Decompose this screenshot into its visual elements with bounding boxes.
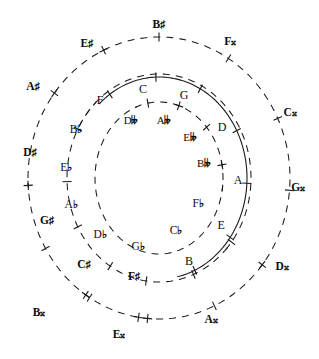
note-accidental: ♯	[135, 270, 140, 282]
note-label-g-sharp: G♯	[40, 215, 54, 227]
note-label-a-sharp: A♯	[26, 81, 39, 93]
note-accidental: 𝄫	[204, 157, 211, 169]
note-accidental: 𝄫	[164, 114, 171, 126]
tick-e-sharp	[99, 46, 107, 54]
ticks-group	[24, 32, 294, 323]
note-letter: A	[26, 80, 34, 92]
note-label-c-sharp: C♯	[77, 259, 90, 271]
ring-flats-ring-cont	[79, 74, 251, 253]
note-label-d-double-flat: D𝄫	[124, 115, 139, 126]
tick-b-double-sharp	[82, 291, 90, 299]
note-accidental: 𝄫	[190, 131, 197, 143]
note-label-e-sharp: E♯	[81, 38, 94, 50]
note-accidental: ♭	[102, 228, 107, 240]
note-letter: G	[132, 240, 140, 252]
note-label-f-double-sharp: F𝄪	[224, 36, 236, 48]
tick-f-flat	[228, 239, 235, 245]
note-label-d-sharp: D♯	[23, 147, 36, 159]
note-accidental: 𝄪	[292, 106, 297, 118]
note-accidental: ♯	[49, 214, 54, 226]
note-accidental: ♭	[67, 161, 72, 173]
ring-double-flats-ring-cont	[95, 107, 223, 254]
note-letter: F	[128, 270, 135, 282]
note-label-a-double-sharp: A𝄪	[205, 314, 218, 326]
note-accidental: 𝄪	[231, 35, 236, 47]
tick-e-double-sharp	[143, 314, 152, 323]
tick-e-double-flat	[203, 124, 210, 130]
tick-e-natural	[226, 235, 233, 240]
note-label-a-flat: A♭	[65, 199, 78, 211]
tick-d-flat	[108, 262, 113, 270]
note-accidental: ♯	[34, 80, 39, 92]
note-accidental: ♭	[140, 240, 145, 252]
rings-group	[28, 37, 290, 319]
note-letter: E	[60, 161, 67, 173]
note-letter: D	[124, 114, 132, 126]
tick-g-flat	[146, 276, 147, 285]
note-label-d-double-sharp: D𝄪	[276, 261, 289, 273]
note-label-b-flat: B♭	[70, 124, 82, 136]
note-label-b-sharp: B♯	[153, 19, 166, 31]
note-label-b-double-flat: B𝄫	[197, 158, 211, 169]
tick-f-sharp	[134, 313, 143, 322]
note-accidental: ♭	[177, 224, 182, 236]
note-label-a-double-flat: A𝄫	[157, 115, 172, 126]
tick-a-sharp	[51, 89, 58, 96]
note-letter: D	[94, 228, 102, 240]
ring-natural-ring	[99, 77, 247, 277]
note-letter: A	[205, 313, 213, 325]
note-accidental: 𝄪	[300, 181, 305, 193]
tick-d-sharp	[24, 181, 33, 190]
ring-flats-ring	[67, 102, 227, 282]
note-accidental: ♭	[73, 198, 78, 210]
circle-of-fifths-diagram: B♯F𝄪C𝄪G𝄪D𝄪A𝄪E𝄪B𝄪A♯E♯D♯G♯C♯F♯CGDAEBFB♭E♭A…	[0, 0, 319, 359]
note-label-e-double-sharp: E𝄪	[113, 329, 125, 341]
note-label-d-natural: D	[218, 121, 226, 133]
note-letter: D	[218, 120, 226, 134]
note-label-d-flat: D♭	[94, 229, 107, 241]
note-letter: B	[185, 254, 193, 268]
note-accidental: ♯	[160, 18, 165, 30]
note-letter: A	[234, 173, 242, 187]
note-letter: G	[180, 88, 188, 102]
note-letter: C	[77, 258, 85, 270]
tick-g-natural	[198, 85, 202, 93]
note-letter: G	[40, 214, 49, 226]
note-label-f-flat: F♭	[192, 198, 203, 210]
note-accidental: 𝄪	[120, 328, 125, 340]
tick-a-double-flat	[174, 101, 183, 110]
note-label-e-double-flat: E𝄫	[183, 132, 196, 143]
note-accidental: ♯	[85, 258, 90, 270]
note-label-f-sharp: F♯	[128, 271, 140, 283]
tick-c-sharp	[87, 294, 92, 302]
note-letter: F	[224, 35, 231, 47]
ring-double-flats-ring	[135, 102, 223, 191]
note-accidental: 𝄫	[131, 114, 138, 126]
circle-of-fifths-canvas	[0, 0, 319, 359]
note-label-b-double-sharp: B𝄪	[33, 307, 45, 319]
tick-a-flat	[74, 225, 82, 229]
note-label-e-natural: E	[217, 219, 224, 231]
note-letter: G	[291, 181, 300, 193]
note-label-c-natural: C	[139, 83, 147, 95]
note-label-a-natural: A	[234, 174, 242, 186]
note-letter: E	[217, 218, 224, 232]
note-label-b-natural: B	[185, 255, 193, 267]
note-label-c-flat: C♭	[170, 225, 182, 237]
note-label-g-double-sharp: G𝄪	[291, 182, 305, 194]
note-letter: D	[23, 146, 31, 158]
note-label-c-double-sharp: C𝄪	[284, 107, 297, 119]
tick-a-double-sharp	[212, 302, 216, 310]
tick-f-natural	[107, 90, 112, 98]
note-letter: C	[139, 82, 147, 96]
note-accidental: ♭	[199, 197, 204, 209]
tick-f-double-sharp	[226, 55, 231, 63]
tick-d-double-sharp	[259, 261, 266, 268]
note-letter: A	[65, 198, 73, 210]
note-letter: D	[276, 260, 284, 272]
note-accidental: ♭	[77, 123, 82, 135]
note-label-g-natural: G	[180, 89, 188, 101]
note-letter: A	[157, 114, 165, 126]
note-accidental: ♯	[31, 146, 36, 158]
note-accidental: 𝄪	[284, 260, 289, 272]
